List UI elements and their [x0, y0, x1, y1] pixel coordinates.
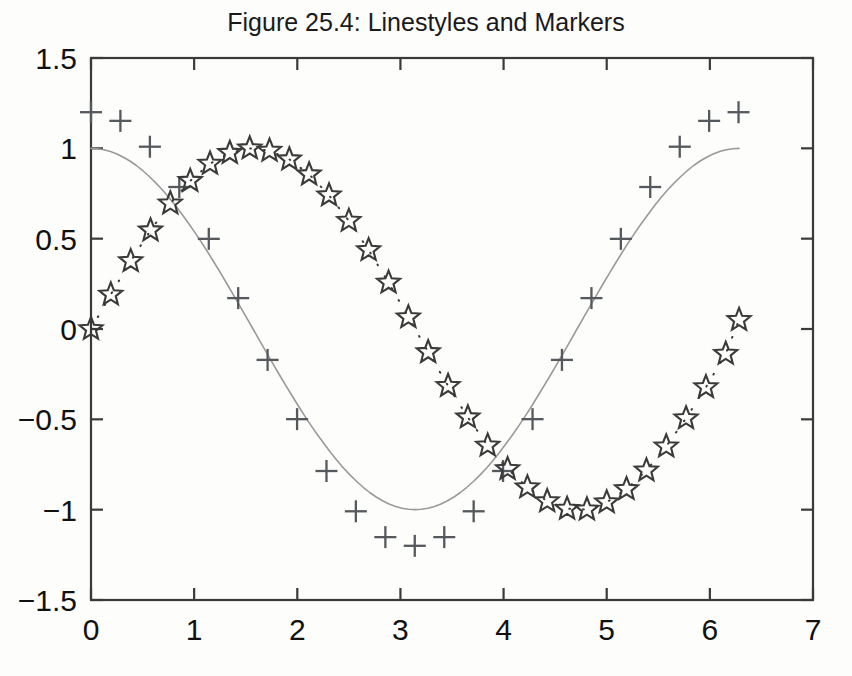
y-tick-label: 1.5: [35, 42, 77, 75]
x-tick-label: 1: [186, 613, 203, 646]
x-tick-label: 4: [495, 613, 512, 646]
y-tick-label: −1: [43, 494, 77, 527]
star-marker: [456, 405, 479, 427]
star-marker: [635, 458, 658, 480]
axes-box: [91, 58, 813, 600]
x-axis-ticks: 01234567: [83, 58, 822, 646]
y-axis-ticks: −1.5−1−0.500.511.5: [18, 42, 813, 617]
series-1: [80, 101, 750, 557]
star-marker: [476, 434, 499, 456]
star-marker: [714, 342, 737, 364]
star-marker: [615, 477, 638, 499]
dotted-line-curve: [91, 148, 739, 509]
y-tick-label: −1.5: [18, 584, 77, 617]
star-marker: [516, 475, 539, 497]
x-tick-label: 6: [702, 613, 719, 646]
data-series-group: [80, 101, 751, 557]
star-marker: [417, 340, 440, 362]
axes-frame: [91, 58, 813, 600]
star-marker: [119, 249, 142, 271]
star-marker: [576, 497, 599, 519]
star-marker: [675, 406, 698, 428]
figure-container: Figure 25.4: Linestyles and Markers 0123…: [0, 0, 852, 676]
star-marker: [496, 457, 519, 479]
y-tick-label: 0.5: [35, 223, 77, 256]
star-marker: [139, 218, 162, 240]
star-marker: [258, 139, 281, 161]
star-marker: [298, 162, 321, 184]
star-marker: [278, 147, 301, 169]
plot-area: 01234567 −1.5−1−0.500.511.5: [0, 0, 852, 676]
x-tick-label: 0: [83, 613, 100, 646]
star-marker: [377, 271, 400, 293]
star-marker: [357, 238, 380, 260]
x-tick-label: 5: [598, 613, 615, 646]
star-marker: [397, 305, 420, 327]
x-tick-label: 3: [392, 613, 409, 646]
y-tick-label: 1: [60, 132, 77, 165]
star-marker: [337, 209, 360, 231]
star-marker: [556, 497, 579, 519]
star-marker: [595, 490, 618, 512]
y-tick-label: 0: [60, 313, 77, 346]
star-marker: [536, 489, 559, 511]
star-marker: [655, 434, 678, 456]
series-0: [91, 148, 739, 509]
y-tick-label: −0.5: [18, 403, 77, 436]
star-marker: [728, 308, 751, 330]
x-tick-label: 7: [805, 613, 822, 646]
x-tick-label: 2: [289, 613, 306, 646]
solid-line-curve: [91, 148, 739, 509]
